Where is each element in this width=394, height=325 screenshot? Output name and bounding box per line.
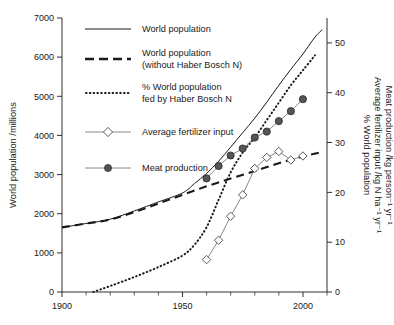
legend-label: Average fertilizer input [142,127,234,137]
y-axis-left-title: World population /millions [8,102,18,208]
y-axis-right-ticklabels: 0 10 20 30 40 50 [335,38,345,297]
y-left-ticklabel: 2000 [34,209,54,219]
chart-plot-area: 0 1000 2000 3000 4000 5000 6000 7000 0 1… [0,0,394,325]
legend-label: World population [142,24,211,34]
y-right-ticklabel: 50 [335,38,345,48]
data-point-open-diamond [214,236,222,244]
legend-label-line-1: World population [142,48,211,58]
data-point-open-diamond [287,156,295,164]
y-right-ticklabel: 0 [335,287,340,297]
x-ticklabel: 1900 [52,301,72,311]
y-left-ticklabel: 3000 [34,170,54,180]
legend-item-pct-world-population-fed-by-haber-bosch[interactable]: % World population fed by Haber Bosch N [86,82,232,104]
filled-circle-icon [105,165,112,172]
y-left-ticklabel: 4000 [34,131,54,141]
y-right-ticklabel: 20 [335,188,345,198]
data-point-filled-circle [251,134,258,141]
y-left-ticklabel: 6000 [34,52,54,62]
data-point-filled-circle [299,96,306,103]
y-axis-right-ticks [327,43,332,292]
x-ticklabel: 1950 [172,301,192,311]
y-right-ticklabel: 40 [335,88,345,98]
y-axis-left-ticklabels: 0 1000 2000 3000 4000 5000 6000 7000 [34,13,54,297]
data-point-open-diamond [226,212,234,220]
y-axis-left-ticks [57,18,62,292]
legend-label-line-2: fed by Haber Bosch N [142,94,232,104]
data-point-filled-circle [203,175,210,182]
x-axis-ticks [62,292,327,297]
y-left-ticklabel: 1000 [34,248,54,258]
data-point-open-diamond [299,152,307,160]
legend-label-line-2: (without Haber Bosch N) [142,60,242,70]
chart-figure: 0 1000 2000 3000 4000 5000 6000 7000 0 1… [0,0,394,325]
y-axis-right-title-line-3: Meat production /kg person⁻¹ yr⁻¹ [384,85,394,224]
x-axis-ticklabels: 1900 1950 2000 [52,301,313,311]
y-left-ticklabel: 0 [49,287,54,297]
legend-item-world-population-without-haber-bosch[interactable]: World population (without Haber Bosch N) [85,48,242,70]
legend-label-line-1: % World population [142,82,222,92]
data-point-filled-circle [215,162,222,169]
open-diamond-icon [103,127,112,136]
y-right-ticklabel: 10 [335,237,345,247]
y-left-ticklabel: 5000 [34,92,54,102]
legend-item-average-fertilizer-input[interactable]: Average fertilizer input [85,127,234,137]
data-point-filled-circle [239,145,246,152]
legend: World population World population (witho… [85,24,242,173]
y-axis-right-title-line-1: % World population [362,115,372,195]
legend-label: Meat production [142,163,208,173]
data-point-open-diamond [275,147,283,155]
data-point-filled-circle [287,108,294,115]
data-point-open-diamond [202,255,210,263]
y-left-ticklabel: 7000 [34,13,54,23]
y-axis-right-title-line-2: Average fertilizer input /kg N ha⁻¹ yr⁻¹ [373,77,383,233]
legend-item-meat-production[interactable]: Meat production [85,163,208,173]
data-point-open-diamond [238,191,246,199]
x-ticklabel: 2000 [293,301,313,311]
legend-item-world-population[interactable]: World population [85,24,211,34]
data-point-filled-circle [227,152,234,159]
y-right-ticklabel: 30 [335,138,345,148]
data-point-filled-circle [263,128,270,135]
data-point-filled-circle [275,118,282,125]
